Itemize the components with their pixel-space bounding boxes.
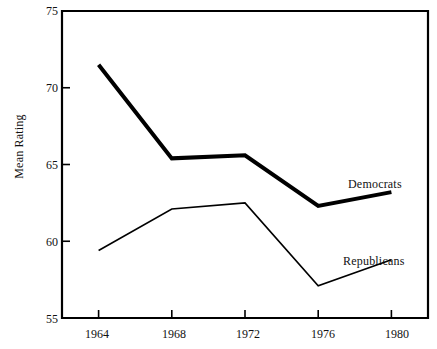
y-tick-marks xyxy=(62,88,70,242)
series-line-democrats xyxy=(99,65,392,206)
plot-area xyxy=(0,0,437,349)
axis-frame xyxy=(62,11,428,318)
series-lines xyxy=(99,65,392,286)
series-line-republicans xyxy=(99,203,392,286)
axis-frame-path xyxy=(62,11,428,318)
x-tick-marks xyxy=(99,310,392,318)
chart-page: Mean Rating 75 70 65 60 55 1964 1968 197… xyxy=(0,0,437,349)
